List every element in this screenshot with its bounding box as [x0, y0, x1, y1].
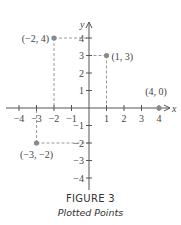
x-tick-label: 3: [139, 113, 144, 124]
x-tick-label: −2: [49, 113, 60, 124]
figure-title: FIGURE 3: [0, 193, 181, 204]
point-label: (−2, 4): [22, 33, 49, 45]
x-tick-label: 1: [104, 113, 109, 124]
y-tick-label: −4: [73, 173, 84, 184]
y-tick-label: −3: [73, 155, 84, 166]
x-axis-label: x: [171, 103, 177, 114]
point-label: (−3, −2): [20, 149, 53, 161]
y-tick-label: 4: [79, 33, 84, 44]
dashed-guides: [37, 38, 107, 143]
x-tick-label: 2: [122, 113, 127, 124]
y-tick-label: 1: [79, 85, 84, 96]
y-axis-label: y: [79, 19, 85, 30]
x-tick-label: −3: [31, 113, 42, 124]
y-tick-label: 3: [79, 50, 84, 61]
x-tick-label: −4: [14, 113, 25, 124]
point-marker: [104, 53, 109, 58]
point-label: (4, 0): [145, 86, 167, 98]
y-tick-label: 2: [79, 68, 84, 79]
x-tick-label: 4: [157, 113, 162, 124]
point-marker: [34, 140, 39, 145]
y-tick-label: −1: [73, 120, 84, 131]
point-label: (1, 3): [112, 51, 134, 63]
point-marker: [51, 35, 56, 40]
point-marker: [156, 105, 161, 110]
plotted-points: (−2, 4)(1, 3)(4, 0)(−3, −2): [20, 33, 167, 161]
y-tick-label: −2: [73, 138, 84, 149]
coordinate-plane: xy −4−3−2−11234−4−3−2−11234 (−2, 4)(1, 3…: [0, 0, 181, 195]
figure-subtitle: Plotted Points: [0, 207, 181, 218]
axes: xy: [6, 19, 177, 190]
